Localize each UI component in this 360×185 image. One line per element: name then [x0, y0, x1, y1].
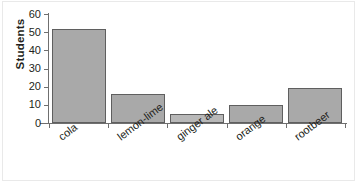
y-axis-tick-label-text: 40	[16, 45, 41, 56]
x-axis-tick	[49, 124, 50, 128]
y-axis-tick-label: 20	[16, 81, 41, 92]
category-label-cola: cola	[56, 121, 79, 143]
x-axis-tick	[108, 124, 109, 128]
y-axis-tick-label: 40	[16, 45, 41, 56]
x-axis-tick	[167, 124, 168, 128]
y-axis-tick-label-text: 50	[16, 27, 41, 38]
y-axis-tick-label-text: 0	[16, 118, 41, 129]
y-axis-tick-label: 10	[16, 99, 41, 110]
x-axis-tick	[345, 124, 346, 128]
bar-cola	[52, 29, 106, 123]
x-axis-tick	[286, 124, 287, 128]
plot-area	[49, 14, 345, 123]
bar-chart-figure: Students 0102030405060 colalemon-limegin…	[0, 0, 360, 185]
y-axis-tick-label-text: 30	[16, 63, 41, 74]
y-axis-tick-label: 30	[16, 63, 41, 74]
y-axis-tick-label: 50	[16, 27, 41, 38]
y-axis-tick-label-text: 20	[16, 81, 41, 92]
x-axis-tick	[227, 124, 228, 128]
y-axis-tick-label-text: 60	[16, 9, 41, 20]
y-axis-tick-label: 0	[16, 118, 41, 129]
y-axis-tick-label: 60	[16, 9, 41, 20]
y-axis-tick-label-text: 10	[16, 99, 41, 110]
